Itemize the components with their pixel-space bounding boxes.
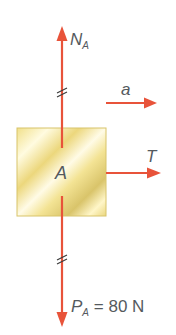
normal-force-subscript: A — [82, 40, 89, 51]
weight-force-label: PA = 80 N — [71, 297, 144, 317]
tension-force-arrow — [106, 168, 161, 179]
body-a-label: A — [55, 163, 67, 184]
weight-value: 80 — [108, 297, 127, 316]
weight-equals-sign: = — [94, 297, 104, 316]
free-body-diagram: NA a A T PA = 80 N — [0, 0, 176, 335]
normal-force-label: NA — [70, 30, 89, 50]
acceleration-label: a — [121, 80, 130, 100]
weight-force-subscript: A — [82, 307, 89, 318]
tension-force-label: T — [146, 147, 156, 167]
acceleration-arrow — [106, 98, 157, 109]
normal-force-symbol: N — [70, 30, 82, 49]
weight-unit: N — [132, 297, 144, 316]
weight-force-symbol: P — [71, 297, 82, 316]
